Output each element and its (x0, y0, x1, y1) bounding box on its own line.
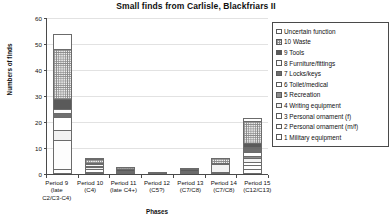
bar-segment[interactable] (211, 172, 230, 174)
legend-swatch (276, 124, 282, 130)
x-axis-label: Phases (46, 208, 268, 215)
legend-label: 6 Toilet/medical (284, 81, 328, 88)
bar-slot (236, 18, 268, 174)
x-axis-tick-label-line: Period 10 (73, 179, 106, 186)
legend-item[interactable]: 1 Military equipment (276, 132, 386, 143)
x-axis-tick-label-line: (C7/C8) (207, 186, 240, 193)
legend-label: 4 Writing equipment (284, 102, 341, 109)
bar-segment[interactable] (85, 172, 104, 174)
legend-item[interactable]: 10 Waste (276, 37, 386, 48)
stacked-bar[interactable] (116, 167, 135, 174)
legend-swatch (276, 71, 282, 77)
legend-item[interactable]: 8 Furniture/fittings (276, 58, 386, 69)
x-axis-tick-label-line: Period 14 (207, 179, 240, 186)
bar-segment[interactable] (53, 117, 72, 130)
bar-slot (173, 18, 205, 174)
legend-swatch (276, 50, 282, 56)
bar-segment[interactable] (116, 172, 135, 174)
chart-legend: Uncertain function10 Waste9 Tools8 Furni… (272, 22, 389, 147)
bar-segment[interactable] (243, 169, 262, 174)
x-axis-tick-label-line: (C12/C13) (241, 186, 274, 193)
x-axis-tick (268, 175, 269, 178)
stacked-bar[interactable] (85, 158, 104, 174)
legend-item[interactable]: 5 Recreation (276, 90, 386, 101)
y-axis-tick-label: 40 (35, 67, 42, 74)
x-axis-tick-label-line: Period 15 (241, 179, 274, 186)
bar-slot (47, 18, 79, 174)
legend-swatch (276, 134, 282, 140)
x-axis-tick-label-line: Period 13 (174, 179, 207, 186)
y-axis-tick-label: 50 (35, 41, 42, 48)
x-axis-tick (78, 175, 79, 178)
x-axis-tick (141, 175, 142, 178)
stacked-bar[interactable] (211, 158, 230, 174)
bar-segment[interactable] (148, 172, 167, 174)
legend-label: 9 Tools (284, 49, 304, 56)
x-axis-tick-label-line: (C5?) (140, 186, 173, 193)
legend-label: Uncertain function (284, 28, 336, 35)
y-axis-tick-label: 30 (35, 93, 42, 100)
bar-segment[interactable] (53, 34, 72, 50)
legend-label: 2 Personal ornament (m/f) (284, 123, 358, 130)
x-axis-tick-label: Period 14(C7/C8) (207, 179, 240, 201)
bar-segment[interactable] (53, 99, 72, 109)
y-axis-label: Numbers of finds (6, 33, 13, 107)
bar-segment[interactable] (53, 140, 72, 169)
legend-item[interactable]: 4 Writing equipment (276, 100, 386, 111)
legend-swatch (276, 39, 282, 45)
x-axis-tick (46, 175, 47, 178)
x-axis-tick (109, 175, 110, 178)
y-axis-tick-label: 0 (39, 171, 42, 178)
stacked-bar[interactable] (180, 168, 199, 174)
chart-title: Small finds from Carlisle, Blackfriars I… (0, 1, 392, 11)
x-axis-tick-label-line: Period 9 (40, 179, 73, 186)
legend-swatch (276, 60, 282, 66)
x-axis-tick-label-line: Period 11 (107, 179, 140, 186)
x-axis-tick-label-line: Period 12 (140, 179, 173, 186)
x-axis-tick-label: Period 11(late C4+) (107, 179, 140, 201)
x-axis-tick-label: Period 9(lateC2/C3-C4) (40, 179, 73, 201)
x-axis-tick-label: Period 13(C7/C8) (174, 179, 207, 201)
bar-group (47, 18, 268, 174)
legend-label: 3 Personal ornament (f) (284, 113, 351, 120)
legend-swatch (276, 113, 282, 119)
legend-label: 5 Recreation (284, 91, 320, 98)
legend-swatch (276, 29, 282, 35)
bar-segment[interactable] (53, 169, 72, 174)
legend-item[interactable]: 9 Tools (276, 47, 386, 58)
bar-segment[interactable] (53, 49, 72, 98)
bar-slot (142, 18, 174, 174)
x-axis-tick-label-line: (late (40, 186, 73, 193)
x-axis-tick-label-line: (late C4+) (107, 186, 140, 193)
legend-item[interactable]: 3 Personal ornament (f) (276, 111, 386, 122)
plot-area: 0102030405060 (46, 18, 268, 175)
legend-item[interactable]: 2 Personal ornament (m/f) (276, 121, 386, 132)
bar-segment[interactable] (211, 164, 230, 172)
legend-label: 8 Furniture/fittings (284, 60, 335, 67)
legend-label: 1 Military equipment (284, 134, 341, 141)
legend-item[interactable]: 6 Toilet/medical (276, 79, 386, 90)
bar-slot (205, 18, 237, 174)
y-axis-tick-label: 20 (35, 119, 42, 126)
x-axis-tick-label: Period 15(C12/C13) (241, 179, 274, 201)
x-axis-tick-label: Period 12(C5?) (140, 179, 173, 201)
stacked-bar[interactable] (148, 172, 167, 174)
stacked-bar[interactable] (53, 34, 72, 174)
bar-segment[interactable] (180, 172, 199, 174)
bar-slot (110, 18, 142, 174)
y-axis-tick-label: 10 (35, 145, 42, 152)
x-axis-tick-label: Period 10(C4) (73, 179, 106, 201)
legend-item[interactable]: 7 Locks/keys (276, 68, 386, 79)
legend-swatch (276, 103, 282, 109)
x-axis-tick-label-line: (C4) (73, 186, 106, 193)
bar-segment[interactable] (243, 121, 262, 143)
legend-swatch (276, 92, 282, 98)
stacked-bar[interactable] (243, 118, 262, 174)
legend-item[interactable]: Uncertain function (276, 26, 386, 37)
y-axis-tick-label: 60 (35, 15, 42, 22)
x-axis-tick (173, 175, 174, 178)
x-axis-tick (236, 175, 237, 178)
legend-label: 7 Locks/keys (284, 70, 321, 77)
bar-segment[interactable] (53, 130, 72, 140)
bar-slot (79, 18, 111, 174)
